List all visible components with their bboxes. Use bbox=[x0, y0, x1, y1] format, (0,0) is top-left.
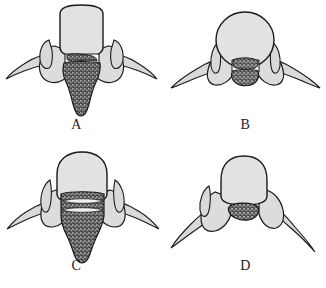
lesion-upper-lobe bbox=[233, 58, 258, 70]
articular-process-right bbox=[114, 180, 125, 212]
articular-process-left bbox=[40, 40, 53, 69]
figure-grid: A bbox=[0, 0, 326, 288]
lesion-striation-upper bbox=[63, 199, 103, 204]
figure-panel-b: B bbox=[163, 0, 326, 144]
panel-label-b: B bbox=[164, 118, 326, 132]
vertebral-body bbox=[60, 5, 103, 57]
lesion-mass bbox=[63, 62, 100, 117]
panel-label-c: C bbox=[0, 259, 158, 273]
lesion-striation-lower bbox=[62, 208, 103, 213]
articular-process-left bbox=[41, 180, 52, 212]
figure-panel-a: A bbox=[0, 0, 163, 144]
lesion-mass bbox=[228, 203, 258, 220]
articular-process-left bbox=[200, 186, 211, 216]
panel-label-a: A bbox=[0, 118, 158, 132]
vertebral-body bbox=[221, 156, 267, 205]
lesion-lower-lobe bbox=[232, 70, 259, 86]
figure-panel-c: C bbox=[0, 144, 163, 288]
panel-label-d: D bbox=[164, 259, 326, 273]
articular-process-right bbox=[111, 40, 124, 69]
figure-panel-d: D bbox=[163, 144, 326, 288]
